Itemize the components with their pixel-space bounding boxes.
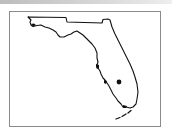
charlotte-harbor-detail — [104, 80, 107, 84]
florida-map — [0, 0, 172, 137]
florida-outline — [28, 17, 138, 108]
location-marker-icon — [117, 80, 122, 85]
florida-keys — [116, 111, 131, 120]
